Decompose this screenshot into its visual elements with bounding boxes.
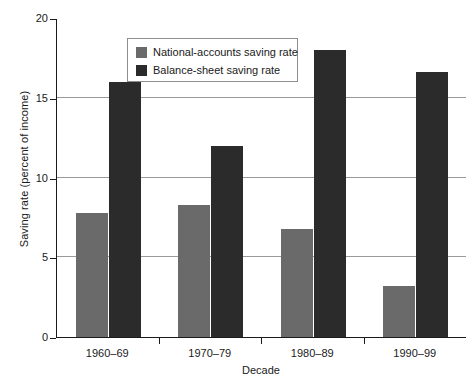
- plot-area: National-accounts saving rate Balance-sh…: [56, 19, 466, 338]
- x-axis-title: Decade: [56, 364, 466, 376]
- bar: [281, 229, 313, 337]
- y-axis-tick-label: 5: [18, 252, 48, 263]
- bar: [178, 205, 210, 337]
- chart-legend: National-accounts saving rate Balance-sh…: [127, 38, 298, 82]
- y-axis-tick-mark: [50, 338, 56, 339]
- x-axis-tick-mark: [159, 338, 160, 344]
- x-axis-tick-label: 1990–99: [360, 347, 470, 359]
- bar: [416, 72, 448, 337]
- x-axis-tick-mark: [364, 338, 365, 344]
- y-axis-tick-label: 0: [18, 332, 48, 343]
- y-axis-tick-label: 10: [18, 173, 48, 184]
- y-axis-tick-label: 15: [18, 93, 48, 104]
- bar: [211, 146, 243, 337]
- legend-swatch-icon: [136, 47, 147, 58]
- y-axis-title: Saving rate (percent of income): [16, 0, 32, 338]
- x-axis-tick-mark: [261, 338, 262, 344]
- x-axis-tick-label: 1970–79: [155, 347, 265, 359]
- legend-item: Balance-sheet saving rate: [136, 62, 297, 78]
- bar: [383, 286, 415, 337]
- x-axis-tick-label: 1960–69: [52, 347, 162, 359]
- bar: [109, 82, 141, 337]
- y-axis-tick-label: 20: [18, 13, 48, 24]
- legend-swatch-icon: [136, 65, 147, 76]
- x-axis-tick-label: 1980–89: [257, 347, 367, 359]
- bar-chart: Saving rate (percent of income) 05101520…: [0, 0, 476, 378]
- bar: [314, 50, 346, 337]
- legend-item-label: National-accounts saving rate: [153, 46, 298, 58]
- legend-item: National-accounts saving rate: [136, 44, 297, 60]
- legend-item-label: Balance-sheet saving rate: [153, 64, 280, 76]
- bar: [76, 213, 108, 337]
